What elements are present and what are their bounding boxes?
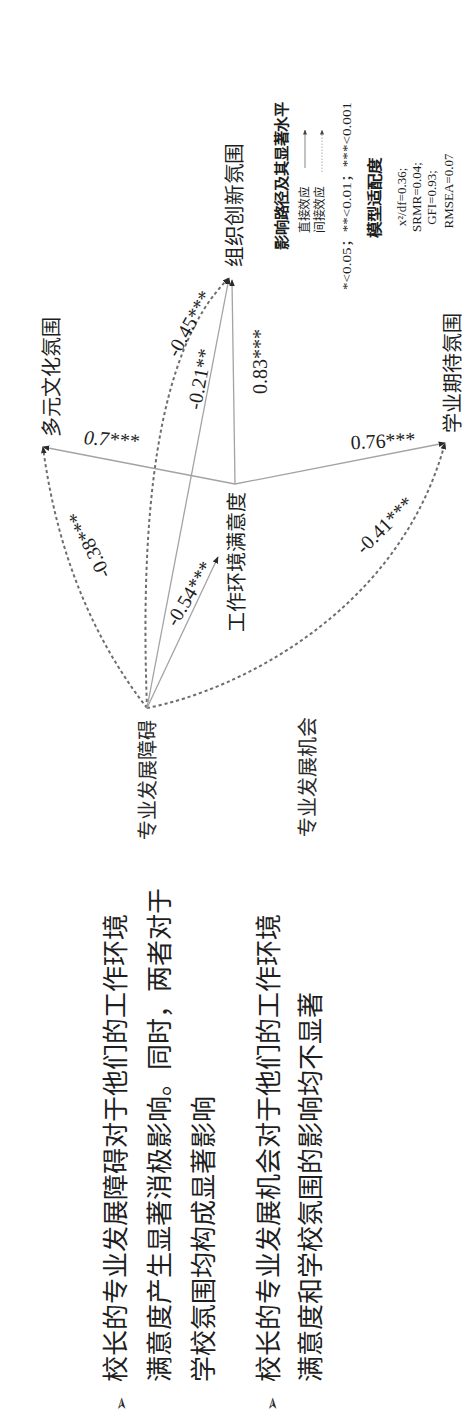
legend-significance: *<0.05；**<0.01；***<0.001 [340,102,354,290]
coef-satisfaction-innovation: 0.83*** [249,329,271,394]
direct-satisfaction-to-multicultural [43,447,235,484]
slide: ➢ 校长的专业发展障碍对于他们的工作环境 满意度产生显著消极影响。同时，两者对于… [0,0,468,1416]
page: ➢ 校长的专业发展障碍对于他们的工作环境 满意度产生显著消极影响。同时，两者对于… [0,0,468,1416]
node-innovation: 组织创新氛围 [224,143,246,267]
node-opportunity: 专业发展机会 [297,717,319,837]
legend-direct-label: 直接效应 [297,186,312,233]
legend-indirect-label: 间接效应 [312,186,327,233]
node-barrier: 专业发展障碍 [137,720,159,840]
legend: 影响路径及其显著水平 直接效应 间接效应 *<0.05；**<0.01；***<… [273,101,354,290]
model-fit-gfi: GFI=0.93; [424,170,439,225]
coef-barrier-multicultural-indirect: -0.38*** [63,508,114,582]
node-academic: 学业期待氛围 [442,313,464,433]
coef-barrier-innovation-indirect: -0.45*** [162,287,216,360]
model-fit-rmsea: RMSEA=0.07 [441,153,456,228]
path-diagram: 专业发展障碍 专业发展机会 工作环境满意度 组织创新氛围 多元文化氛围 学业期待… [0,0,468,1416]
model-fit-title: 模型适配度 [366,157,383,238]
coef-satisfaction-academic: 0.76*** [350,428,416,453]
model-fit: 模型适配度 x²/df=0.36; SRMR=0.04; GFI=0.93; R… [366,153,456,238]
coef-barrier-academic-indirect: -0.41*** [351,492,417,558]
model-fit-srmr: SRMR=0.04; [409,162,424,232]
model-fit-chi-df: x²/df=0.36; [394,168,409,227]
node-satisfaction: 工作环境满意度 [226,492,248,632]
direct-satisfaction-to-innovation [232,280,235,484]
coef-satisfaction-multicultural: 0.7*** [83,426,139,452]
coef-barrier-innovation-direct: -0.21** [183,347,216,412]
legend-title: 影响路径及其显著水平 [273,101,290,250]
node-multicultural: 多元文化氛围 [41,317,63,437]
